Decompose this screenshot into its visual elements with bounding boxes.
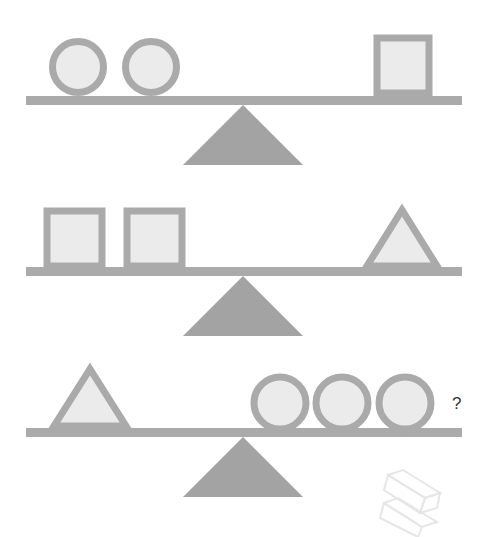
scale-3-right-circle-3	[379, 377, 431, 429]
scale-3-right-circle-2	[316, 377, 368, 429]
scale-1-left-circle-1	[53, 42, 104, 93]
scale-1-fulcrum	[183, 105, 303, 165]
scale-2-left-square-2	[127, 211, 182, 266]
balance-puzzle-diagram	[0, 0, 491, 537]
scale-3-right-circle-1	[254, 377, 306, 429]
scale-3-left-triangle	[54, 369, 126, 426]
question-mark: ?	[452, 394, 461, 414]
watermark-boxes-icon	[380, 470, 440, 537]
scale-2-left-square-1	[47, 211, 102, 266]
scale-2-right-triangle	[367, 210, 437, 266]
scale-3	[26, 369, 462, 497]
scale-1-right-square	[377, 38, 429, 93]
scale-1-beam	[26, 96, 462, 105]
scale-1	[26, 38, 462, 165]
scale-1-left-circle-2	[126, 42, 177, 93]
scale-3-fulcrum	[183, 437, 303, 497]
scale-2	[26, 210, 462, 336]
scale-2-fulcrum	[183, 276, 303, 336]
